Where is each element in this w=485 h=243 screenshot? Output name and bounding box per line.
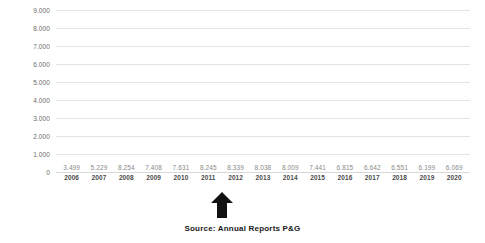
bar-value-label: 7.408: [145, 164, 162, 171]
bar-slot: 6.199: [413, 10, 440, 172]
x-axis-tick-label: 2011: [195, 174, 222, 181]
y-axis-tick-label: 7.000: [33, 42, 50, 49]
bar-slot: 6.551: [386, 10, 413, 172]
bar-value-label: 6.069: [446, 164, 463, 171]
bar-slot: 8.009: [277, 10, 304, 172]
x-axis-tick-label: 2012: [222, 174, 249, 181]
y-axis: 9.0008.0007.0006.0005.0004.0003.0002.000…: [18, 10, 54, 172]
bar-value-label: 7.631: [173, 164, 190, 171]
source-caption: Source: Annual Reports P&G: [0, 224, 485, 233]
bar-value-label: 7.441: [309, 164, 326, 171]
x-axis-tick-label: 2017: [359, 174, 386, 181]
y-axis-tick-label: 3.000: [33, 115, 50, 122]
bar-value-label: 6.551: [391, 164, 408, 171]
bar-value-label: 6.642: [364, 164, 381, 171]
bar-value-label: 6.199: [419, 164, 436, 171]
bar-value-label: 5.229: [91, 164, 108, 171]
x-axis: 2006200720082009201020112012201320142015…: [56, 174, 470, 181]
gridline: [56, 172, 470, 173]
bar-slot: 7.631: [167, 10, 194, 172]
bar-slot: 8.254: [113, 10, 140, 172]
bar-slot: 3.499: [58, 10, 85, 172]
bar-slot: 7.441: [304, 10, 331, 172]
y-axis-tick-label: 9.000: [33, 7, 50, 14]
y-axis-tick-label: 4.000: [33, 97, 50, 104]
y-axis-tick-label: 6.000: [33, 61, 50, 68]
bar-slot: 5.229: [85, 10, 112, 172]
bar-value-label: 8.254: [118, 164, 135, 171]
bar-slot: 8.245: [195, 10, 222, 172]
bar-value-label: 8.339: [227, 164, 244, 171]
y-axis-tick-label: 0: [46, 169, 50, 176]
x-axis-tick-label: 2020: [441, 174, 468, 181]
x-axis-tick-label: 2010: [167, 174, 194, 181]
y-axis-tick-label: 2.000: [33, 133, 50, 140]
bars-layer: 3.4995.2298.2547.4087.6318.2458.3398.038…: [56, 10, 470, 172]
bar-value-label: 8.009: [282, 164, 299, 171]
bar-slot: 8.339: [222, 10, 249, 172]
bar-value-label: 6.815: [337, 164, 354, 171]
bar-value-label: 8.038: [255, 164, 272, 171]
y-axis-tick-label: 5.000: [33, 78, 50, 85]
bar-slot: 6.815: [331, 10, 358, 172]
bar-value-label: 8.245: [200, 164, 217, 171]
x-axis-tick-label: 2015: [304, 174, 331, 181]
bar-chart-figure: 9.0008.0007.0006.0005.0004.0003.0002.000…: [0, 0, 485, 243]
bar-slot: 7.408: [140, 10, 167, 172]
x-axis-tick-label: 2013: [249, 174, 276, 181]
up-arrow-icon: [210, 192, 234, 218]
bar-value-label: 3.499: [63, 164, 80, 171]
bar-slot: 8.038: [249, 10, 276, 172]
y-axis-tick-label: 1.000: [33, 150, 50, 157]
y-axis-tick-label: 8.000: [33, 24, 50, 31]
x-axis-tick-label: 2008: [113, 174, 140, 181]
x-axis-tick-label: 2007: [85, 174, 112, 181]
bar-slot: 6.642: [359, 10, 386, 172]
x-axis-tick-label: 2018: [386, 174, 413, 181]
x-axis-tick-label: 2006: [58, 174, 85, 181]
bar-slot: 6.069: [441, 10, 468, 172]
x-axis-tick-label: 2016: [331, 174, 358, 181]
x-axis-tick-label: 2009: [140, 174, 167, 181]
x-axis-tick-label: 2014: [277, 174, 304, 181]
x-axis-tick-label: 2019: [413, 174, 440, 181]
plot-wrapper: 9.0008.0007.0006.0005.0004.0003.0002.000…: [18, 10, 470, 172]
plot-area: 3.4995.2298.2547.4087.6318.2458.3398.038…: [56, 10, 470, 172]
